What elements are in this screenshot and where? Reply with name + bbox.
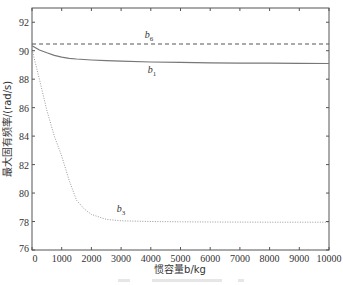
y-tick-label: 90	[19, 46, 29, 57]
axis-ticks: 0100020003000400050006000700080009000100…	[19, 8, 342, 264]
x-tick-label: 7000	[230, 253, 250, 264]
x-tick-label: 8000	[260, 253, 280, 264]
series-layer	[32, 44, 329, 222]
x-tick-label: 5000	[171, 253, 191, 264]
series-label-b3: b3	[117, 203, 126, 217]
y-tick-label: 80	[19, 188, 29, 199]
y-tick-label: 88	[19, 74, 29, 85]
x-tick-label: 0	[33, 253, 38, 264]
x-tick-label: 4000	[141, 253, 161, 264]
y-tick-label: 82	[19, 160, 29, 171]
x-tick-label: 3000	[111, 253, 131, 264]
y-tick-label: 86	[19, 103, 29, 114]
series-labels: b6b1b3	[117, 29, 157, 217]
series-b3-line	[32, 49, 329, 222]
y-tick-label: 92	[19, 17, 29, 28]
y-tick-label: 76	[19, 243, 29, 254]
series-b1-line	[32, 46, 329, 64]
y-tick-label: 78	[19, 217, 29, 228]
series-label-b1: b1	[148, 64, 157, 78]
x-tick-label: 9000	[289, 253, 309, 264]
x-tick-label: 1000	[52, 253, 72, 264]
x-tick-label: 6000	[200, 253, 220, 264]
chart: 0100020003000400050006000700080009000100…	[0, 0, 343, 285]
series-label-b6: b6	[145, 29, 154, 43]
figure-caption-cropped	[0, 279, 343, 285]
y-axis-title: 最大固有频率/(rad/s)	[1, 81, 13, 177]
x-tick-label: 2000	[81, 253, 101, 264]
x-tick-label: 10000	[317, 253, 342, 264]
y-tick-label: 84	[19, 131, 29, 142]
x-axis-title: 惯容量b/kg	[154, 263, 206, 275]
